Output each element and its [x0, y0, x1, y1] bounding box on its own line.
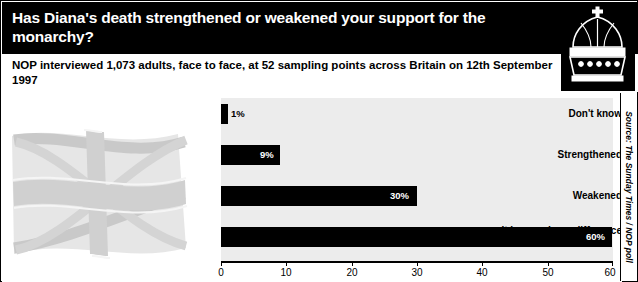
x-tick-label-0: 0	[218, 267, 224, 278]
x-tick-10	[286, 261, 287, 266]
infographic-panel: Has Diana's death strengthened or weaken…	[0, 0, 638, 282]
header-band: Has Diana's death strengthened or weaken…	[2, 2, 638, 54]
x-tick-50	[548, 261, 549, 266]
bar-value-weakened: 30%	[390, 190, 409, 201]
methodology-note: NOP interviewed 1,073 adults, face to fa…	[12, 58, 557, 87]
x-tick-40	[482, 261, 483, 266]
x-tick-label-30: 30	[411, 267, 422, 278]
bar-dont-know	[221, 104, 228, 124]
x-tick-label-50: 50	[542, 267, 553, 278]
x-tick-label-10: 10	[280, 267, 291, 278]
bar-no-difference	[221, 227, 612, 247]
category-label-weakened: Weakened	[416, 190, 622, 202]
source-strip: Source: The Sunday Times / NOP poll	[620, 93, 636, 281]
union-flag-watermark	[8, 120, 213, 270]
subheader-band: NOP interviewed 1,073 adults, face to fa…	[2, 54, 638, 92]
x-tick-label-40: 40	[476, 267, 487, 278]
x-tick-60	[612, 261, 613, 266]
x-tick-label-60: 60	[604, 267, 615, 278]
bar-value-no-difference: 60%	[586, 231, 605, 242]
bar-weakened	[221, 186, 417, 206]
crown-icon	[561, 3, 635, 91]
bar-value-strengthened: 9%	[260, 149, 274, 160]
x-tick-20	[352, 261, 353, 266]
source-label: Source: The Sunday Times / NOP poll	[624, 111, 634, 263]
x-tick-0	[221, 261, 222, 266]
chart-area: 0 10 20 30 40 50 60 Don't know 1% Streng…	[2, 92, 622, 282]
x-tick-30	[417, 261, 418, 266]
category-label-dont-know: Don't know	[416, 108, 622, 120]
x-tick-label-20: 20	[346, 267, 357, 278]
category-label-strengthened: Strengthened	[416, 149, 622, 161]
page-title: Has Diana's death strengthened or weaken…	[12, 8, 567, 46]
bar-value-dont-know: 1%	[231, 108, 245, 119]
